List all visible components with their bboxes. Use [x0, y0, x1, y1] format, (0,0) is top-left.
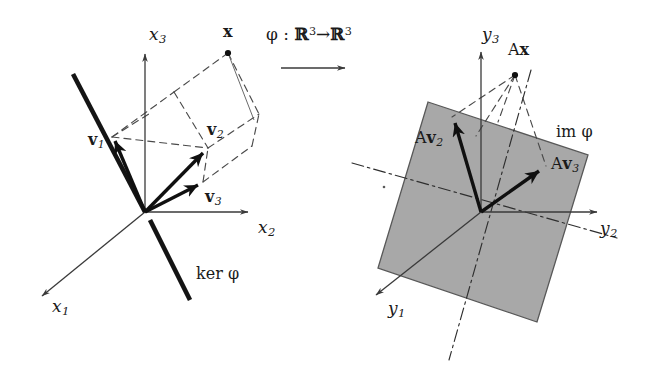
point-label-x: x	[223, 24, 233, 40]
domain-diagram	[42, 50, 259, 300]
axis-label-y2: y2	[600, 220, 617, 240]
vector-label-v2: v2	[207, 122, 224, 141]
vector-label-Av2: Av2	[415, 130, 443, 149]
vector-label-v1: v1	[88, 132, 105, 151]
vector-v2	[145, 153, 203, 212]
vector-label-Av3: Av3	[551, 156, 579, 175]
paralleleped-edge-x-to-right	[228, 53, 259, 114]
point-label-Ax: Ax	[508, 42, 529, 58]
axis-label-y1: y1	[388, 300, 405, 320]
point-Ax-dot	[512, 72, 518, 78]
domain-parallelepiped	[112, 53, 259, 182]
axis-label-x1: x1	[52, 298, 69, 318]
paralleleped-edge-top-to-x	[174, 53, 228, 92]
kernel-line	[73, 74, 145, 212]
paralleleped-edge-v1-to-v2sum	[112, 137, 208, 148]
scan-speck	[383, 186, 386, 189]
vector-v3	[145, 185, 198, 212]
domain-parallelepiped-thin-edge	[228, 53, 254, 120]
axis-x1-line	[42, 212, 145, 296]
axis-label-y3: y3	[482, 26, 499, 46]
vector-label-v3: v3	[205, 189, 222, 208]
kernel-label: ker φ	[196, 266, 239, 282]
paralleleped-edge-v3-to-v2	[203, 148, 208, 182]
paralleleped-edge-v1-diag	[112, 112, 152, 137]
vector-v1	[115, 141, 145, 212]
mapping-notation: φ : ℝ3→ℝ3	[266, 26, 352, 43]
point-x-dot	[225, 50, 231, 56]
paralleleped-edge-v3-to-far	[203, 146, 252, 182]
figure-canvas	[0, 0, 648, 368]
kernel-line-lower	[150, 220, 190, 300]
edge-x-to-corner	[228, 53, 254, 120]
paralleleped-edge-top-to-v2	[174, 92, 208, 148]
linear-map-figure: x1 x2 x3 v1 v2 v3 x ker φ φ : ℝ3→ℝ3 y1 y…	[0, 0, 648, 368]
projection-Ax-to-Av2-corner	[452, 75, 515, 117]
axis-label-x3: x3	[149, 26, 166, 46]
paralleleped-edge-v1-to-top	[112, 92, 174, 137]
image-label: im φ	[556, 124, 593, 140]
axis-label-x2: x2	[258, 219, 275, 239]
